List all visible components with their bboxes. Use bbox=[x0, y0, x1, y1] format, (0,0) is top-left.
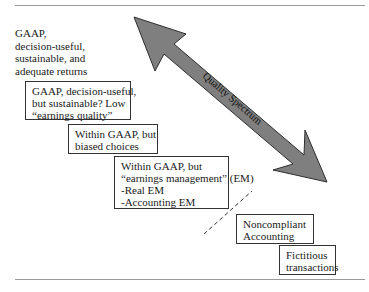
spectrum-label: Quality Spectrum bbox=[201, 70, 265, 127]
box-low-earnings-quality: GAAP, decision-useful, but sustainable? … bbox=[25, 81, 131, 120]
box-biased-choices: Within GAAP, but biased choices bbox=[68, 124, 158, 154]
box-line: “earnings management” (EM) bbox=[121, 172, 223, 184]
box-line: Accounting bbox=[243, 230, 308, 242]
box-line: biased choices bbox=[75, 140, 152, 152]
box-earnings-management: Within GAAP, but “earnings management” (… bbox=[114, 156, 229, 209]
box-line: Fictitious bbox=[286, 249, 330, 261]
box-line: “earnings quality” bbox=[32, 109, 125, 121]
box-line: GAAP, decision-useful, bbox=[32, 85, 125, 97]
box-line: -Real EM bbox=[121, 184, 223, 196]
box-line: Noncompliant bbox=[243, 218, 308, 230]
top-label: GAAP, decision-useful, sustainable, and … bbox=[15, 27, 87, 77]
top-label-line: decision-useful, bbox=[15, 40, 87, 53]
box-fictitious-transactions: Fictitious transactions bbox=[279, 245, 336, 275]
box-line: but sustainable? Low bbox=[32, 97, 125, 109]
box-line: -Accounting EM bbox=[121, 196, 223, 208]
box-line: transactions bbox=[286, 261, 330, 273]
box-noncompliant-accounting: Noncompliant Accounting bbox=[236, 214, 314, 244]
top-label-line: adequate returns bbox=[15, 65, 87, 78]
box-line: Within GAAP, but bbox=[121, 160, 223, 172]
box-line: Within GAAP, but bbox=[75, 128, 152, 140]
top-label-line: GAAP, bbox=[15, 27, 87, 40]
top-label-line: sustainable, and bbox=[15, 52, 87, 65]
